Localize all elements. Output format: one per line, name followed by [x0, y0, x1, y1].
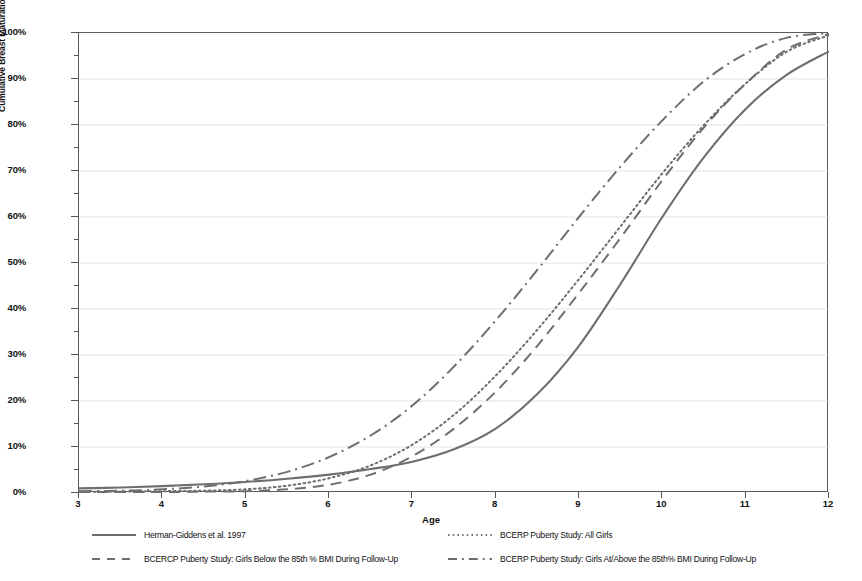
series-lines	[79, 33, 829, 492]
legend-line-swatch	[91, 554, 137, 564]
series-line-1	[79, 51, 829, 488]
y-tick-label: 70%	[0, 164, 26, 175]
x-tick-label: 3	[63, 498, 93, 509]
y-tick-label: 90%	[0, 72, 26, 83]
x-axis-title: Age	[0, 514, 862, 525]
y-tick-mark	[71, 262, 78, 263]
y-tick-mark	[71, 354, 78, 355]
y-tick-label: 80%	[0, 118, 26, 129]
x-tick-label: 6	[313, 498, 343, 509]
legend-item-3[interactable]: BCERP Puberty Study: All Girls	[447, 530, 612, 540]
y-tick-mark	[71, 308, 78, 309]
x-tick-label: 5	[230, 498, 260, 509]
y-tick-label: 60%	[0, 210, 26, 221]
legend-item-4[interactable]: BCERP Puberty Study: Girls At/Above the …	[447, 554, 756, 564]
legend-item-label: BCERP Puberty Study: All Girls	[500, 530, 612, 540]
legend-line-swatch	[447, 554, 493, 564]
x-tick-label: 8	[480, 498, 510, 509]
gridlines	[79, 79, 829, 447]
y-tick-mark	[71, 124, 78, 125]
legend-item-label: Herman-Giddens et al. 1997	[144, 530, 245, 540]
y-tick-mark	[71, 170, 78, 171]
y-tick-label: 10%	[0, 440, 26, 451]
legend-line-swatch	[447, 530, 493, 540]
y-tick-label: 30%	[0, 348, 26, 359]
plot-area	[78, 32, 828, 492]
y-tick-mark	[71, 78, 78, 79]
x-tick-label: 12	[813, 498, 843, 509]
y-tick-label: 50%	[0, 256, 26, 267]
x-tick-label: 9	[563, 498, 593, 509]
series-line-2	[79, 35, 829, 491]
x-tick-label: 10	[646, 498, 676, 509]
chart-figure: Cumulative Breast Maturation Prevalence …	[0, 0, 862, 581]
legend-item-label: BCERCP Puberty Study: Girls Below the 85…	[144, 554, 398, 564]
y-tick-mark	[71, 32, 78, 33]
x-tick-label: 11	[730, 498, 760, 509]
legend-item-label: BCERP Puberty Study: Girls At/Above the …	[500, 554, 756, 564]
y-tick-mark	[71, 446, 78, 447]
legend-item-2[interactable]: BCERCP Puberty Study: Girls Below the 85…	[91, 554, 398, 564]
y-tick-mark	[71, 400, 78, 401]
x-tick-label: 4	[146, 498, 176, 509]
plot-canvas	[79, 33, 829, 493]
legend-line-swatch	[91, 530, 137, 540]
y-tick-label: 40%	[0, 302, 26, 313]
y-tick-label: 20%	[0, 394, 26, 405]
legend-item-1[interactable]: Herman-Giddens et al. 1997	[91, 530, 245, 540]
chart-legend: Herman-Giddens et al. 1997BCERCP Puberty…	[55, 528, 845, 576]
series-line-4	[79, 33, 829, 491]
x-tick-label: 7	[396, 498, 426, 509]
y-tick-mark	[71, 216, 78, 217]
y-tick-mark	[71, 492, 78, 493]
y-tick-label: 100%	[0, 26, 26, 37]
y-tick-label: 0%	[0, 486, 26, 497]
